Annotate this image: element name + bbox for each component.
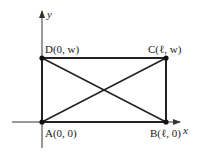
label-a: A(0, 0) xyxy=(45,127,77,140)
y-axis-label: y xyxy=(46,8,52,20)
point-c xyxy=(163,55,168,60)
point-a xyxy=(39,119,44,124)
rectangle-diagram: y x D(0, w) C(ℓ, w) A(0, 0) B(ℓ, 0) xyxy=(0,0,212,157)
label-b: B(ℓ, 0) xyxy=(150,127,181,140)
x-axis-label: x xyxy=(182,124,188,136)
label-d: D(0, w) xyxy=(45,43,80,56)
point-d xyxy=(39,55,44,60)
point-b xyxy=(163,119,168,124)
label-c: C(ℓ, w) xyxy=(148,43,182,56)
